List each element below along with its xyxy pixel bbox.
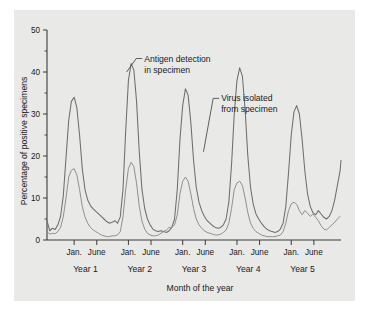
x-axis-title: Month of the year — [167, 283, 234, 293]
y-tick-label-10: 10 — [31, 194, 41, 203]
figure-panel: 01020304050 Jan.JuneJan.JuneJan.JuneJan.… — [14, 10, 355, 301]
series-virus-isolated — [47, 162, 340, 236]
x-axis-ticks — [74, 240, 314, 245]
antigen-annotation-leader-line — [127, 59, 143, 73]
x-tick-label-5: June — [196, 248, 214, 257]
y-tick-label-50: 50 — [31, 26, 41, 35]
y-tick-label-20: 20 — [31, 152, 41, 161]
y-tick-label-40: 40 — [31, 68, 41, 77]
x-tick-label-7: June — [251, 248, 269, 257]
x-tick-label-3: June — [142, 248, 160, 257]
virus-annotation-leader-line — [203, 98, 219, 151]
virus-annotation-line2: from specimen — [221, 104, 278, 114]
year-group-label-1: Year 1 — [73, 264, 98, 274]
y-tick-label-0: 0 — [35, 236, 40, 245]
year-group-labels: Year 1Year 2Year 3Year 4Year 5 — [73, 264, 315, 274]
epidemic-seasonality-line-chart: 01020304050 Jan.JuneJan.JuneJan.JuneJan.… — [14, 10, 355, 301]
x-tick-label-2: Jan. — [121, 248, 136, 257]
year-group-label-3: Year 3 — [182, 264, 207, 274]
x-tick-label-9: June — [305, 248, 323, 257]
year-group-label-4: Year 4 — [236, 264, 261, 274]
series-antigen-detection — [47, 64, 341, 233]
chart-annotations: Antigen detection in specimen Virus isol… — [127, 54, 278, 152]
x-axis-tick-labels: Jan.JuneJan.JuneJan.JuneJan.JuneJan.June — [66, 248, 323, 257]
data-series — [47, 64, 341, 237]
antigen-annotation-line1: Antigen detection — [144, 54, 211, 64]
x-tick-label-1: June — [88, 248, 106, 257]
y-tick-label-30: 30 — [31, 110, 41, 119]
y-axis-title: Percentage of positive specimens — [19, 77, 29, 206]
virus-annotation-line1: Virus isolated — [221, 93, 273, 103]
x-tick-label-8: Jan. — [284, 248, 299, 257]
x-tick-label-6: Jan. — [229, 248, 244, 257]
x-tick-label-4: Jan. — [175, 248, 190, 257]
year-group-label-5: Year 5 — [290, 264, 315, 274]
antigen-annotation-line2: in specimen — [144, 65, 190, 75]
y-axis-tick-labels: 01020304050 — [31, 26, 41, 245]
x-tick-label-0: Jan. — [66, 248, 81, 257]
year-group-label-2: Year 2 — [127, 264, 152, 274]
